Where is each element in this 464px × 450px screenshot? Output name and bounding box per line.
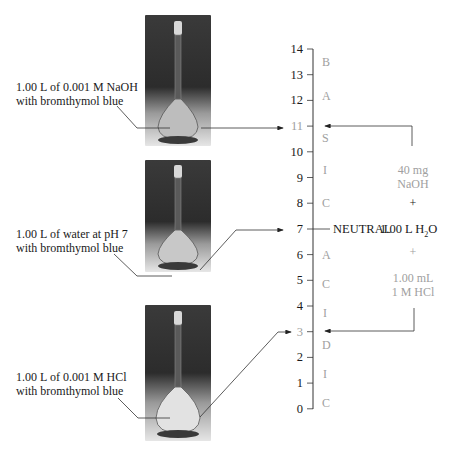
acidic-letter: C (322, 396, 330, 410)
basic-letter: C (322, 196, 330, 210)
ph-tick-label: 11 (279, 119, 303, 133)
ph-tick-label: 1 (279, 376, 303, 390)
ph-tick-label: 7 (279, 222, 303, 236)
arrow-hcl-to-ph3 (200, 332, 291, 417)
ph-tick-label: 14 (279, 42, 303, 56)
leader-line-water (114, 254, 172, 276)
ph-tick-label: 4 (279, 299, 303, 313)
ph-tick-label: 0 (279, 402, 303, 416)
ph-tick-label: 2 (279, 350, 303, 364)
arrow-naoh-addition (325, 126, 412, 146)
naoh-amount: 40 mg (386, 163, 440, 177)
leader-line-hcl (118, 398, 170, 418)
basic-letter: B (322, 55, 330, 69)
acidic-letter: I (323, 306, 327, 320)
water-end: O (428, 222, 437, 236)
water-amount: 1.00 L H (380, 222, 424, 236)
acidic-letter: D (322, 338, 331, 352)
basic-letter: S (322, 131, 329, 145)
leader-line-naoh (117, 106, 170, 128)
basic-letter: A (322, 89, 331, 103)
ph-tick-label: 12 (279, 93, 303, 107)
basic-letter: I (323, 163, 327, 177)
water-label: 1.00 L H2O (380, 222, 437, 242)
hcl-addition-label: 1.00 mL 1 M HCl (384, 271, 442, 299)
acidic-letter: C (322, 277, 330, 291)
ph-tick-label: 3 (279, 325, 303, 339)
acidic-letter: I (323, 367, 327, 381)
ph-tick-label: 5 (279, 273, 303, 287)
ph-tick-label: 13 (279, 68, 303, 82)
ph-tick-label: 10 (279, 145, 303, 159)
plus-sign-top: + (400, 196, 426, 210)
arrow-hcl-addition (325, 308, 414, 331)
acidic-letter: A (322, 248, 331, 262)
naoh-addition-label: 40 mg NaOH (386, 163, 440, 191)
naoh-name: NaOH (386, 177, 440, 191)
hcl-amount: 1.00 mL (384, 271, 442, 285)
hcl-name: 1 M HCl (384, 285, 442, 299)
plus-sign-bottom: + (400, 245, 426, 259)
ph-tick-label: 6 (279, 248, 303, 262)
ph-tick-label: 9 (279, 171, 303, 185)
ph-tick-label: 8 (279, 196, 303, 210)
arrow-water-to-ph7 (200, 230, 283, 270)
